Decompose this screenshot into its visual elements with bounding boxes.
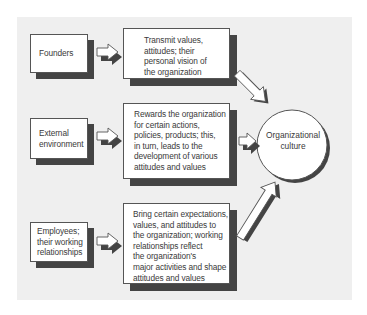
arrow-diagonal-down-right-icon: [236, 72, 296, 132]
arrow-right-icon: [238, 132, 268, 156]
arrow-right-icon: [96, 127, 126, 151]
organizational-culture-circle: [0, 0, 367, 315]
arrow-right-icon: [96, 43, 126, 67]
arrow-diagonal-up-right-icon: [234, 160, 314, 250]
arrow-right-icon: [96, 232, 126, 256]
